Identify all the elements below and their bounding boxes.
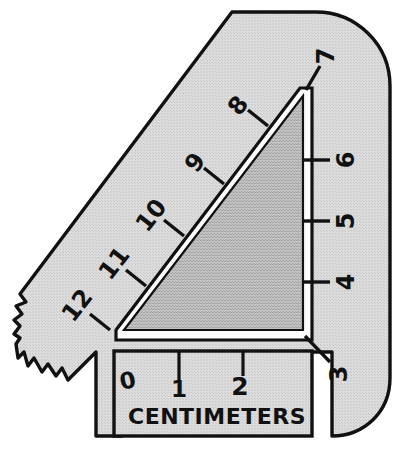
- vertical-label-3: 3: [325, 366, 353, 383]
- figure-canvas: 8 9 10 11 12 7 6 5: [0, 0, 417, 451]
- vertical-label-7: 7: [312, 48, 340, 65]
- vertical-label-5: 5: [332, 213, 360, 230]
- ruler-label-1: 1: [171, 376, 187, 402]
- centimeter-ruler-group: 0 1 2 CENTIMETERS: [114, 351, 312, 436]
- ruler-unit-label: CENTIMETERS: [128, 404, 306, 429]
- vertical-label-6: 6: [332, 152, 360, 169]
- ruler-label-2: 2: [231, 372, 248, 401]
- measuring-device-illustration: 8 9 10 11 12 7 6 5: [0, 0, 417, 451]
- vertical-label-4: 4: [332, 274, 360, 291]
